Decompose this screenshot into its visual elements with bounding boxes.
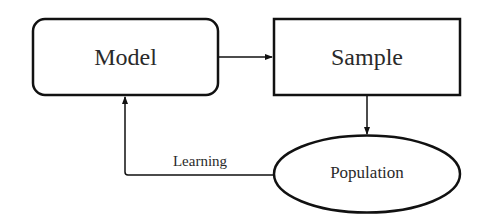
learning-edge-label: Learning: [150, 151, 250, 171]
population-node-label: Population: [274, 162, 460, 184]
model-node-label: Model: [33, 39, 218, 75]
sample-node-label: Sample: [274, 39, 460, 75]
diagram-canvas: [0, 0, 484, 221]
